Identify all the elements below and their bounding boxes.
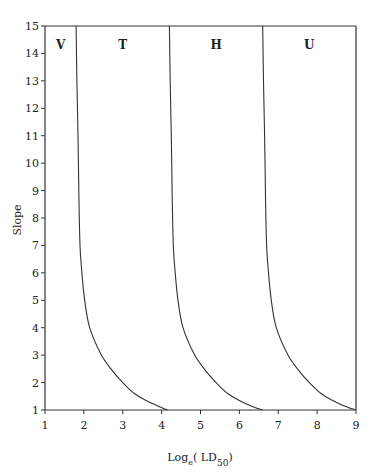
x-label-main: Log bbox=[167, 451, 188, 464]
y-axis-label: Slope bbox=[11, 204, 24, 235]
y-tick-label: 3 bbox=[32, 349, 39, 362]
region-label-h: H bbox=[210, 38, 221, 52]
y-tick-label: 9 bbox=[32, 185, 39, 198]
y-tick-label: 12 bbox=[25, 102, 39, 115]
curves-group bbox=[76, 26, 356, 410]
boundary-curve-3 bbox=[263, 26, 356, 410]
y-tick-label: 4 bbox=[32, 322, 39, 335]
y-tick-label: 13 bbox=[25, 75, 39, 88]
x-tick-label: 1 bbox=[42, 419, 49, 432]
axes-frame bbox=[45, 26, 356, 410]
x-tick-label: 2 bbox=[80, 419, 87, 432]
x-tick-label: 7 bbox=[275, 419, 282, 432]
x-axis-ticks: 123456789 bbox=[42, 410, 360, 432]
y-tick-label: 1 bbox=[32, 404, 39, 417]
y-axis-ticks: 123456789101112131415 bbox=[25, 20, 45, 417]
y-tick-label: 7 bbox=[32, 239, 39, 252]
x-tick-label: 4 bbox=[158, 419, 165, 432]
region-label-v: V bbox=[55, 38, 66, 52]
y-tick-label: 6 bbox=[32, 267, 39, 280]
boundary-curve-1 bbox=[76, 26, 167, 410]
region-labels: VTHU bbox=[55, 38, 315, 52]
y-tick-label: 2 bbox=[32, 377, 39, 390]
x-label-mid: ( LD bbox=[193, 451, 217, 464]
x-axis-label: Loge( LD50) bbox=[167, 451, 232, 468]
x-label-end: ) bbox=[228, 451, 232, 464]
x-label-sub-50: 50 bbox=[217, 458, 229, 468]
chart-figure: 123456789 123456789101112131415 VTHU Slo… bbox=[0, 0, 386, 476]
x-tick-label: 3 bbox=[119, 419, 126, 432]
region-label-u: U bbox=[304, 38, 315, 52]
boundary-curve-2 bbox=[169, 26, 262, 410]
y-tick-label: 11 bbox=[25, 130, 39, 143]
y-tick-label: 14 bbox=[25, 47, 39, 60]
y-tick-label: 10 bbox=[25, 157, 39, 170]
y-tick-label: 5 bbox=[32, 294, 39, 307]
x-tick-label: 5 bbox=[197, 419, 204, 432]
x-tick-label: 6 bbox=[236, 419, 243, 432]
x-tick-label: 8 bbox=[314, 419, 321, 432]
y-tick-label: 8 bbox=[32, 212, 39, 225]
y-tick-label: 15 bbox=[25, 20, 39, 33]
region-label-t: T bbox=[118, 38, 127, 52]
x-tick-label: 9 bbox=[353, 419, 360, 432]
